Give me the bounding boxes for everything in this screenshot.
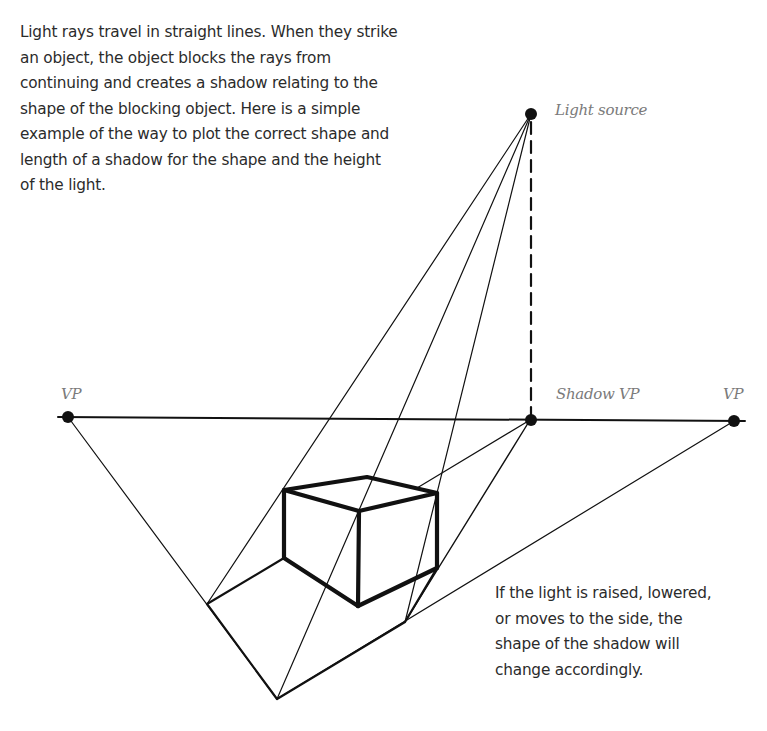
light-ray-2 [277,114,531,699]
note-paragraph: If the light is raised, lowered, or move… [495,581,755,683]
shadow-outline [207,558,437,699]
shadow-vp-line-top [417,420,530,488]
light-ray-1 [207,114,531,604]
vp-right-point [728,415,740,427]
horizon-line [58,417,745,421]
shadow-vp-point [525,414,537,426]
vp-left-point [62,411,74,423]
cube-edge-front [358,511,359,606]
light-ray-3 [405,114,531,622]
light-source-point [525,108,537,120]
